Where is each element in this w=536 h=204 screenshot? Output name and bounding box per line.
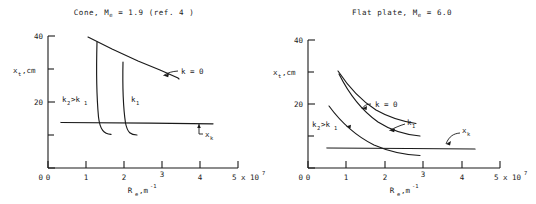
annotation-k1-sub: 1: [412, 123, 415, 129]
y-axis-title-rest: ,cm: [282, 68, 296, 77]
panel-cone: Cone, Me = 1.9 (ref. 4 ) 40 20 0: [0, 0, 268, 204]
figure-root: Cone, Me = 1.9 (ref. 4 ) 40 20 0: [0, 0, 536, 204]
y-tick-label-0: 0: [38, 173, 43, 182]
annotation-k2-sub2: 1: [334, 125, 337, 131]
annotation-xk-sub: k: [210, 135, 214, 141]
x-tick-label-4: 4: [198, 173, 203, 182]
x-axis-title-sub: e: [397, 191, 400, 197]
annotation-k-zero: k = 0: [375, 100, 398, 109]
y-tick-label-20: 20: [294, 100, 304, 109]
curve-k-zero: [338, 71, 416, 124]
annotation-k1-sub: 1: [136, 100, 139, 106]
y-tick-label-40: 40: [294, 36, 304, 45]
y-axis-title-rest: ,cm: [22, 66, 36, 75]
x-tick-label-0: 0: [306, 173, 311, 182]
annotation-k2-sub: 2: [67, 100, 70, 106]
x-axis-title-mid: ,m: [139, 186, 149, 195]
x-tick-label-2: 2: [122, 173, 127, 182]
x-axis-title-main: R: [390, 186, 395, 195]
curve-k-zero: [88, 37, 179, 79]
x-tick-label-3: 3: [421, 170, 426, 179]
x-tick-label-4: 4: [460, 173, 465, 182]
y-axis-title-sub: t: [278, 73, 281, 79]
annotation-k2-sub2: 1: [84, 100, 87, 106]
curve-k2: [97, 42, 111, 134]
curve-xk-line: [327, 148, 475, 149]
x-axis-end-exponent: 7: [262, 170, 265, 176]
annotation-k2-sub: 2: [317, 125, 320, 131]
x-axis-title-exponent: -1: [150, 183, 157, 189]
x-axis-title-main: R: [128, 186, 133, 195]
x-axis-end-label: 5 x 10: [232, 173, 260, 182]
panel-flat-plate: Flat plate, Me = 6.0 40 20 0: [268, 0, 536, 204]
plot-flat-plate: 40 20 0 0 1 2 3 4 5 x 10 7 R e ,m -1 x t…: [268, 0, 536, 204]
annotation-k2-b: >k: [321, 120, 331, 129]
plot-cone: 40 20 0 0 1 2 3 4 5 x 10 7 R e ,m -1 x t…: [0, 0, 268, 204]
k1-leader: [390, 124, 406, 131]
xk-arrowhead: [197, 124, 201, 128]
y-tick-label-0: 0: [298, 173, 303, 182]
x-axis-end-label: 5 x 10: [494, 173, 522, 182]
annotation-k2-b: >k: [71, 95, 81, 104]
annotation-k-zero: k = 0: [181, 67, 204, 76]
x-axis-title-mid: ,m: [401, 186, 411, 195]
y-axis-title-sub: t: [18, 71, 21, 77]
curve-xk-line: [61, 123, 213, 124]
x-axis-end-exponent: 7: [524, 170, 527, 176]
y-tick-label-40: 40: [34, 32, 44, 41]
x-tick-label-1: 1: [84, 173, 89, 182]
x-tick-label-1: 1: [344, 173, 349, 182]
x-tick-label-2: 2: [383, 173, 388, 182]
y-tick-label-20: 20: [34, 98, 44, 107]
x-tick-label-0: 0: [46, 173, 51, 182]
annotation-xk-sub: k: [467, 131, 471, 137]
x-axis-title-exponent: -1: [412, 183, 419, 189]
xk-leader: [446, 133, 460, 144]
x-tick-label-3: 3: [160, 170, 165, 179]
x-axis-title-sub: e: [135, 191, 138, 197]
